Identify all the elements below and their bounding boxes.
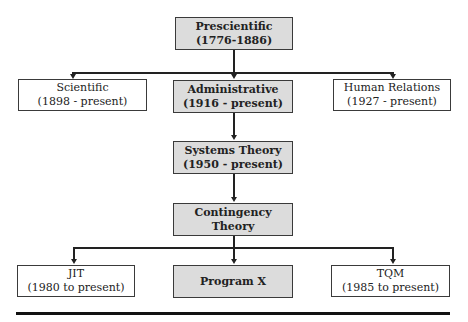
arrow-to-tqm-icon [390,259,396,264]
node-program-x: Program X [173,265,293,298]
node-title: Human Relations [344,81,440,95]
node-subtitle: Theory [212,220,255,234]
node-title: JIT [68,267,84,281]
node-subtitle: (1776-1886) [196,34,272,48]
node-scientific: Scientific (1898 - present) [18,79,147,111]
node-title: Program X [200,275,266,289]
node-tqm: TQM (1985 to present) [331,265,450,297]
node-subtitle: (1980 to present) [27,281,124,295]
arrow-to-systems-theory-icon [231,135,237,140]
arrow-to-program-x-icon [231,259,237,264]
node-subtitle: (1985 to present) [342,281,439,295]
node-title: Contingency [194,206,271,220]
node-subtitle: (1916 - present) [183,97,283,111]
connector-administrative-systems [233,112,235,136]
node-title: Systems Theory [185,144,282,158]
connector-level3-horizontal [73,247,393,249]
node-title: TQM [377,267,405,281]
node-administrative: Administrative (1916 - present) [173,80,293,113]
bottom-rule-divider [16,312,450,315]
node-subtitle: (1950 - present) [183,158,283,172]
node-subtitle: (1927 - present) [347,95,437,109]
node-prescientific: Prescientific (1776-1886) [175,17,293,50]
node-title: Scientific [56,81,108,95]
node-human-relations: Human Relations (1927 - present) [333,79,451,111]
node-title: Administrative [187,83,278,97]
connector-prescientific-down [233,49,235,73]
node-systems-theory: Systems Theory (1950 - present) [173,141,293,174]
arrow-to-jit-icon [71,259,77,264]
node-subtitle: (1898 - present) [38,95,128,109]
arrow-to-contingency-icon [231,197,237,202]
node-title: Prescientific [195,20,272,34]
arrow-to-administrative-icon [231,74,237,79]
node-contingency-theory: Contingency Theory [173,203,293,236]
node-jit: JIT (1980 to present) [17,265,135,297]
connector-systems-contingency [233,173,235,198]
